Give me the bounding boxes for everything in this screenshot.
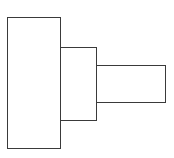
diagram-canvas	[0, 0, 174, 158]
large-rectangle	[7, 17, 61, 149]
medium-rectangle	[60, 47, 97, 121]
small-rectangle	[96, 65, 166, 103]
